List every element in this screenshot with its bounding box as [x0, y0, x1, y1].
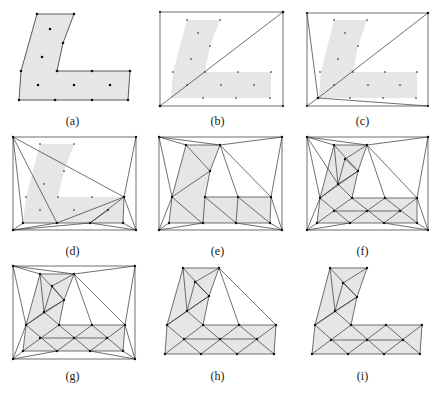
caption-f: (f) — [290, 244, 435, 259]
caption-h: (h) — [145, 369, 290, 384]
panel-c: (c) — [290, 0, 435, 131]
panel-e-figure — [145, 131, 290, 262]
panel-b: (b) — [145, 0, 290, 131]
caption-g: (g) — [0, 369, 145, 384]
panel-e: (e) — [145, 131, 290, 262]
panel-h: (h) — [145, 262, 290, 393]
caption-a: (a) — [0, 114, 145, 129]
caption-c: (c) — [290, 114, 435, 129]
panel-d: (d) — [0, 131, 145, 262]
panel-b-figure — [145, 0, 290, 131]
panel-f: (f) — [290, 131, 435, 262]
panel-d-figure — [0, 131, 145, 262]
caption-d: (d) — [0, 244, 145, 259]
panel-i: (i) — [290, 262, 435, 393]
panel-a-figure — [0, 0, 145, 131]
caption-b: (b) — [145, 114, 290, 129]
panel-g: (g) — [0, 262, 145, 393]
panel-c-figure — [290, 0, 436, 131]
panel-f-figure — [290, 131, 436, 262]
caption-i: (i) — [290, 369, 435, 384]
panel-a: (a) — [0, 0, 145, 131]
caption-e: (e) — [145, 244, 290, 259]
